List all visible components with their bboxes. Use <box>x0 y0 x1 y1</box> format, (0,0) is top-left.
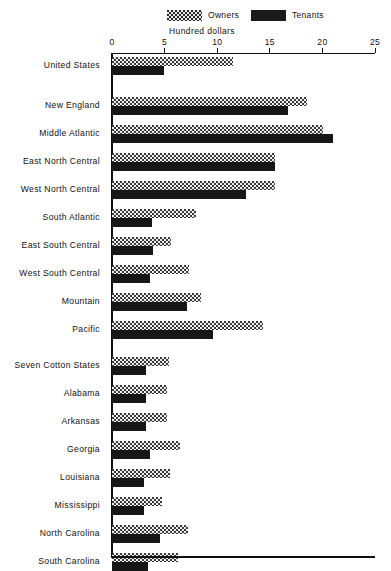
bar-tenants <box>112 478 144 487</box>
checker-swatch-icon <box>167 10 202 21</box>
plot-area: United StatesNew EnglandMiddle AtlanticE… <box>0 54 391 556</box>
bar-tenants <box>112 190 246 199</box>
category-label: North Carolina <box>40 528 100 538</box>
bar-tenants <box>112 422 146 431</box>
bar-owners <box>112 209 196 218</box>
chart-row: West North Central <box>0 181 391 199</box>
chart-row: North Carolina <box>0 525 391 543</box>
bar-owners <box>112 153 275 162</box>
x-tick-label: 25 <box>370 37 380 47</box>
bar-owners <box>112 321 263 330</box>
x-tick-label: 5 <box>162 37 167 47</box>
category-label: New England <box>45 100 100 110</box>
bar-owners <box>112 441 180 450</box>
bar-owners <box>112 469 170 478</box>
bar-owners <box>112 385 167 394</box>
bar-tenants <box>112 134 333 143</box>
category-label: East South Central <box>22 240 100 250</box>
bar-owners <box>112 497 162 506</box>
bar-tenants <box>112 330 213 339</box>
category-label: East North Central <box>23 156 100 166</box>
bar-tenants <box>112 366 146 375</box>
category-label: Mountain <box>62 296 100 306</box>
bar-owners <box>112 357 169 366</box>
bar-owners <box>112 237 171 246</box>
bar-tenants <box>112 450 150 459</box>
chart-row: Mountain <box>0 293 391 311</box>
legend-entry-tenants: Tenants <box>251 8 324 22</box>
bar-tenants <box>112 534 160 543</box>
legend-label-tenants: Tenants <box>292 10 324 20</box>
bar-owners <box>112 181 275 190</box>
category-label: Georgia <box>67 444 100 454</box>
x-axis-title: Hundred dollars <box>142 26 262 36</box>
bar-tenants <box>112 506 144 515</box>
bar-owners <box>112 553 178 562</box>
category-label: West North Central <box>21 184 100 194</box>
chart-row: Seven Cotton States <box>0 357 391 375</box>
bar-owners <box>112 97 307 106</box>
chart-row: East South Central <box>0 237 391 255</box>
bar-owners <box>112 265 189 274</box>
bar-owners <box>112 57 233 66</box>
x-tick-label: 10 <box>212 37 222 47</box>
x-tick-label: 0 <box>109 37 114 47</box>
chart-row: United States <box>0 57 391 75</box>
category-label: South Atlantic <box>43 212 100 222</box>
chart-row: Pacific <box>0 321 391 339</box>
bar-owners <box>112 293 201 302</box>
chart-row: New England <box>0 97 391 115</box>
category-label: Alabama <box>64 388 100 398</box>
bar-tenants <box>112 66 164 75</box>
category-label: South Carolina <box>38 556 100 566</box>
chart-row: East North Central <box>0 153 391 171</box>
chart-row: Middle Atlantic <box>0 125 391 143</box>
category-label: Seven Cotton States <box>15 360 100 370</box>
bar-tenants <box>112 562 148 571</box>
bar-tenants <box>112 106 288 115</box>
x-tick-label: 20 <box>317 37 327 47</box>
category-label: West South Central <box>19 268 100 278</box>
chart-legend: Owners Tenants <box>0 8 391 24</box>
chart-row: South Atlantic <box>0 209 391 227</box>
chart-row: Georgia <box>0 441 391 459</box>
category-label: Middle Atlantic <box>39 128 100 138</box>
category-label: United States <box>44 60 100 70</box>
bar-tenants <box>112 246 153 255</box>
bar-tenants <box>112 162 275 171</box>
bar-owners <box>112 525 188 534</box>
legend-label-owners: Owners <box>208 10 239 20</box>
legend-entry-owners: Owners <box>167 8 239 22</box>
bar-tenants <box>112 302 187 311</box>
x-tick-label: 15 <box>265 37 275 47</box>
chart-baseline <box>111 556 375 558</box>
category-label: Mississippi <box>55 500 100 510</box>
chart-row: West South Central <box>0 265 391 283</box>
chart-row: Arkansas <box>0 413 391 431</box>
bar-tenants <box>112 218 152 227</box>
category-label: Arkansas <box>61 416 100 426</box>
bar-tenants <box>112 394 146 403</box>
bar-tenants <box>112 274 150 283</box>
chart-row: Louisiana <box>0 469 391 487</box>
chart-row: Mississippi <box>0 497 391 515</box>
bar-owners <box>112 413 167 422</box>
bar-owners <box>112 125 323 134</box>
category-label: Pacific <box>72 324 100 334</box>
chart-row: Alabama <box>0 385 391 403</box>
category-label: Louisiana <box>60 472 100 482</box>
solid-swatch-icon <box>251 10 286 21</box>
